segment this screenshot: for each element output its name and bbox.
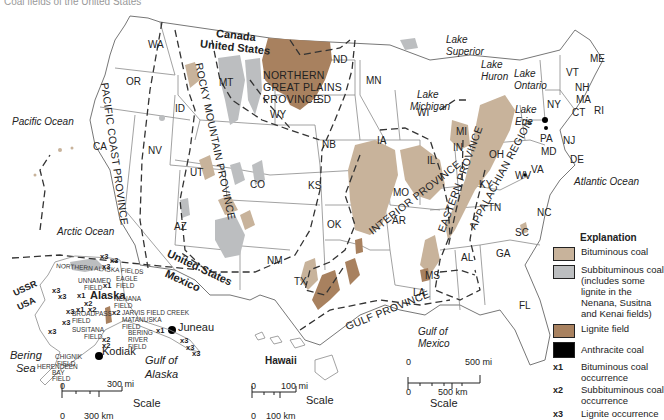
- state-ny: NY: [547, 100, 561, 110]
- label-ngp-line2: GREAT PLAINS: [263, 82, 342, 93]
- state-me: ME: [590, 54, 605, 64]
- marker-x1: x1: [103, 282, 111, 290]
- label-bering-sea-2: Sea: [16, 363, 36, 374]
- scale-alaska-km: 300 km: [84, 411, 114, 420]
- marker-x3: x3: [100, 253, 108, 261]
- state-mi: MI: [456, 127, 467, 137]
- state-or: OR: [126, 77, 141, 87]
- label-arctic-ocean: Arctic Ocean: [57, 227, 114, 237]
- state-ca: CA: [93, 142, 107, 152]
- label-ngp-line1: NORTHERN: [263, 70, 325, 81]
- state-va: VA: [531, 165, 544, 175]
- state-ga: GA: [496, 249, 510, 259]
- bituminous-swatch: [553, 247, 575, 261]
- scale-hawaii-mi: 100 mi: [281, 381, 308, 391]
- scale-alaska-km-zero: 0: [60, 411, 65, 420]
- label-susitana-2: FIELD: [84, 334, 102, 341]
- anthracite-pa-2: [544, 126, 548, 130]
- state-wa: WA: [148, 40, 164, 50]
- scale-hawaii-km-zero: 0: [251, 411, 256, 420]
- state-de: DE: [570, 155, 584, 165]
- state-ct: CT: [572, 108, 585, 118]
- marker-x2: x2: [88, 306, 96, 314]
- label-unnamed-2: FIELD: [84, 285, 102, 292]
- marker-x3: x3: [48, 328, 56, 336]
- label-bering-sea-1: Bering: [10, 350, 42, 361]
- legend-occurrence-x3: x3 Lignite occurrence: [553, 409, 664, 420]
- scale-main-mi-zero: 0: [406, 357, 411, 367]
- state-al: AL: [461, 253, 473, 263]
- state-id: ID: [175, 104, 185, 114]
- marker-x1: x1: [76, 306, 84, 314]
- label-gulf-of-mexico-2: Mexico: [418, 339, 450, 349]
- state-nh: NH: [575, 83, 589, 93]
- scale-main-mi: 500 mi: [465, 357, 492, 367]
- state-ia: IA: [377, 136, 386, 146]
- marker-x3: x3: [66, 308, 74, 316]
- state-nv: NV: [148, 146, 162, 156]
- label-ngp-line3: PROVINCE: [263, 94, 320, 105]
- state-nm: NM: [267, 256, 283, 266]
- marker-x3: x3: [192, 350, 200, 358]
- label-lake-ontario-1: Lake: [514, 69, 536, 79]
- subbituminous-swatch: [553, 265, 575, 279]
- marker-x3: x3: [110, 257, 118, 265]
- state-ma: MA: [576, 95, 591, 105]
- marker-x1: x1: [156, 327, 164, 335]
- state-ok: OK: [327, 220, 341, 230]
- label-gulf-of-alaska-1: Gulf of: [145, 355, 177, 366]
- label-lake-ontario-2: Ontario: [514, 81, 547, 91]
- lignite-swatch: [553, 324, 575, 338]
- label-lake-michigan-2: Michigan: [410, 102, 450, 112]
- label-broadpass-2: FIELD: [72, 318, 90, 325]
- state-co: CO: [250, 180, 265, 190]
- scale-alaska-mi-zero: 0: [60, 381, 65, 391]
- label-atlantic-ocean: Atlantic Ocean: [574, 177, 639, 187]
- scale-hawaii-mi-zero: 0: [251, 381, 256, 391]
- label-lake-superior-2: Superior: [446, 47, 484, 57]
- state-tx: TX: [294, 277, 307, 287]
- state-fl: FL: [519, 301, 531, 311]
- legend: Explanation Bituminous coal Subbituminou…: [553, 232, 664, 420]
- label-eagle-2: FIELD: [116, 283, 134, 290]
- scale-hawaii-km: 100 km: [266, 411, 296, 420]
- marker-x3: x3: [62, 319, 70, 327]
- state-mt: MT: [219, 78, 233, 88]
- state-ut: UT: [190, 168, 203, 178]
- marker-x3: x3: [58, 293, 66, 301]
- label-bering-river-3: FIELD: [128, 344, 146, 351]
- state-wv: WV: [515, 171, 531, 181]
- state-nb: NB: [322, 140, 336, 150]
- legend-occurrence-x2: x2 Subbituminous coal occurrence: [553, 385, 664, 407]
- legend-item-anthracite: Anthracite coal: [553, 342, 664, 358]
- label-lake-huron-2: Huron: [481, 72, 508, 82]
- scale-alaska-mi: 300 mi: [107, 379, 134, 389]
- state-ri: RI: [594, 106, 604, 116]
- state-md: MD: [541, 147, 557, 157]
- scale-hawaii-label: Scale: [306, 394, 334, 406]
- marker-x2: x2: [112, 309, 120, 317]
- scale-alaska-label: Scale: [133, 397, 161, 409]
- state-vt: VT: [566, 68, 579, 78]
- scale-main-km-zero: 0: [406, 387, 411, 397]
- label-juneau: Juneau: [178, 322, 214, 333]
- state-nj: NJ: [563, 136, 575, 146]
- state-ms: MS: [425, 271, 440, 281]
- state-wy: WY: [270, 110, 286, 120]
- anthracite-pa-1: [542, 117, 548, 123]
- label-lake-huron-1: Lake: [481, 60, 503, 70]
- label-lake-erie-1: Lake: [515, 105, 537, 115]
- scale-main-km: 500 km: [438, 387, 468, 397]
- label-gulf-of-alaska-2: Alaska: [145, 369, 178, 380]
- state-sc: SC: [515, 228, 529, 238]
- legend-occurrence-x1: x1 Bituminous coal occurrence: [553, 362, 664, 384]
- legend-item-bituminous: Bituminous coal: [553, 247, 664, 261]
- legend-item-subbituminous: Subbituminous coal (includes some lignit…: [553, 265, 664, 320]
- anthracite-swatch: [553, 342, 575, 358]
- scale-main-label: Scale: [430, 397, 458, 409]
- state-mn: MN: [366, 76, 382, 86]
- state-nd: ND: [333, 55, 347, 65]
- state-in: IN: [453, 143, 463, 153]
- state-il: IL: [427, 156, 435, 166]
- label-hawaii: Hawaii: [265, 356, 297, 366]
